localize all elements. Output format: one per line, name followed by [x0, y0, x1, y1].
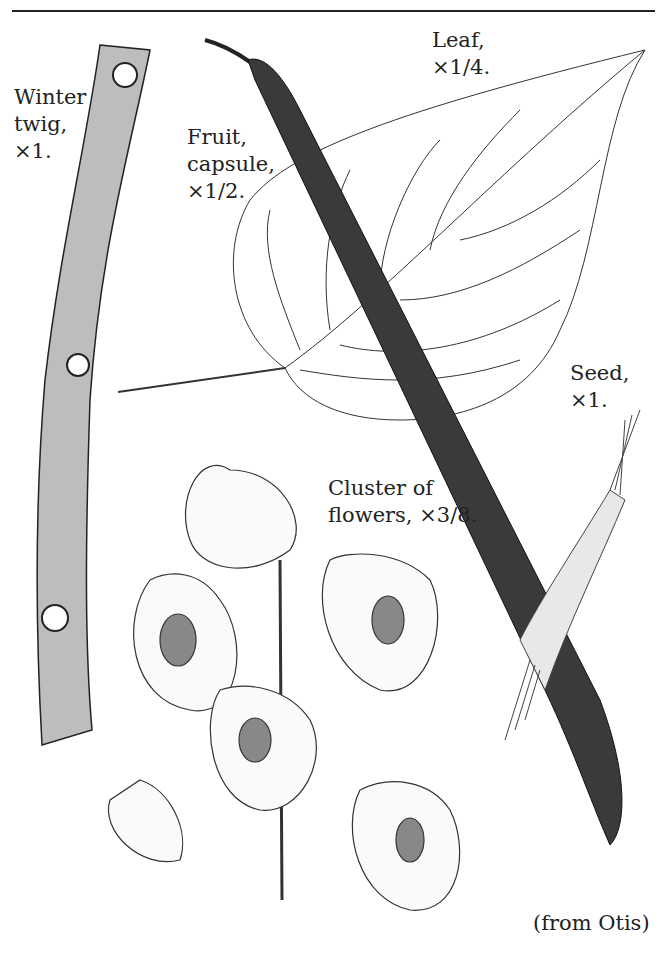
flower-cluster-drawing	[108, 465, 459, 910]
flowers-label: Cluster offlowers, ×3/8.	[328, 475, 477, 529]
leaf-drawing	[118, 50, 645, 420]
seed-label: Seed,×1.	[570, 360, 629, 414]
fruit-label: Fruit,capsule,×1/2.	[187, 124, 275, 205]
winter-twig-label: Wintertwig,×1.	[14, 84, 86, 165]
credit-label: (from Otis)	[533, 910, 650, 937]
leaf-label: Leaf,×1/4.	[432, 27, 490, 81]
